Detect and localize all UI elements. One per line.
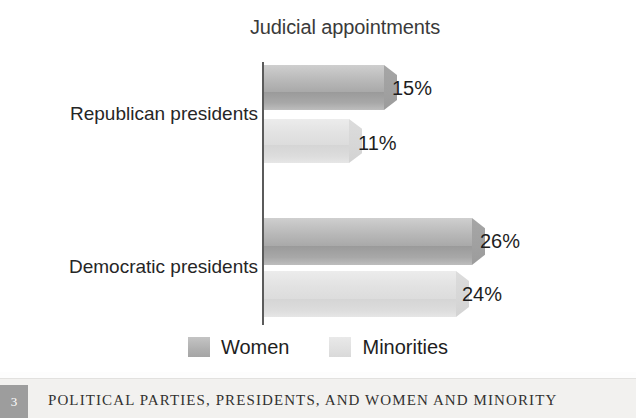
- chart-legend: Women Minorities: [0, 330, 636, 364]
- bar-front-face: [264, 299, 456, 317]
- value-label-democratic-women: 26%: [480, 230, 520, 253]
- bar-top-face: [264, 271, 456, 299]
- value-label-democratic-minorities: 24%: [462, 283, 502, 306]
- bar-democratic-women: [264, 218, 472, 265]
- bar-front-face: [264, 92, 384, 110]
- bar-front-face: [264, 145, 349, 163]
- running-head: POLITICAL PARTIES, PRESIDENTS, AND WOMEN…: [48, 392, 557, 409]
- bar-body: [264, 218, 472, 265]
- bar-democratic-minorities: [264, 271, 456, 317]
- bar-body: [264, 119, 349, 163]
- page-footer: 3 POLITICAL PARTIES, PRESIDENTS, AND WOM…: [0, 378, 636, 418]
- bar-republican-women: [264, 65, 384, 110]
- bar-body: [264, 65, 384, 110]
- value-label-republican-minorities: 11%: [358, 132, 397, 155]
- bar-top-face: [264, 119, 349, 145]
- plot-area: Republican presidents Democratic preside…: [0, 55, 636, 330]
- legend-item-minorities: Minorities: [329, 336, 448, 359]
- legend-item-women: Women: [188, 336, 290, 359]
- bar-top-face: [264, 218, 472, 246]
- bar-body: [264, 271, 456, 317]
- page-number-badge: 3: [0, 385, 28, 418]
- chart-figure: Judicial appointments Republican preside…: [0, 0, 636, 372]
- page-number: 3: [11, 394, 18, 410]
- chart-title: Judicial appointments: [180, 16, 510, 39]
- bar-republican-minorities: [264, 119, 349, 163]
- legend-swatch-women-icon: [188, 337, 210, 357]
- legend-label-women: Women: [221, 336, 290, 359]
- category-label-democratic: Democratic presidents: [69, 256, 258, 278]
- bar-top-face: [264, 65, 384, 92]
- category-label-republican: Republican presidents: [70, 103, 258, 125]
- legend-swatch-minorities-icon: [329, 337, 351, 357]
- legend-label-minorities: Minorities: [362, 336, 448, 359]
- value-label-republican-women: 15%: [392, 77, 432, 100]
- bar-front-face: [264, 246, 472, 265]
